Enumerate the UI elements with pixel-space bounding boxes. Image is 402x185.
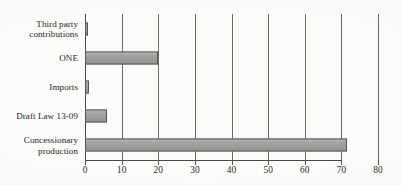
- y-axis-label-draft-law-13-09: Draft Law 13-09: [0, 111, 81, 121]
- y-axis-label-third-party-contributions: Third party contributions: [0, 18, 81, 39]
- x-axis-tick-label-10: 10: [117, 165, 126, 176]
- x-axis-tick-label-30: 30: [190, 165, 199, 176]
- x-axis-tick-label-60: 60: [300, 165, 309, 176]
- bar-0: [85, 22, 88, 35]
- bar-sheen: [86, 23, 87, 34]
- x-axis-tick-label-0: 0: [83, 165, 88, 176]
- y-axis-label-imports: Imports: [0, 82, 81, 92]
- x-axis-tick-label-20: 20: [154, 165, 163, 176]
- bar-4: [85, 139, 347, 152]
- x-axis-tick-labels: 01020304050607080: [0, 165, 402, 181]
- bar-3: [85, 110, 107, 123]
- x-axis-tick-label-80: 80: [373, 165, 382, 176]
- y-axis-label-one: ONE: [0, 53, 81, 63]
- bar-2: [85, 81, 89, 94]
- bar-sheen: [86, 140, 346, 151]
- gridline-80: [378, 14, 379, 160]
- bar-sheen: [86, 52, 157, 63]
- x-axis-tick-label-50: 50: [263, 165, 272, 176]
- bar-sheen: [86, 82, 88, 93]
- bar-1: [85, 51, 158, 64]
- x-axis-tick-label-40: 40: [227, 165, 236, 176]
- bar-sheen: [86, 111, 106, 122]
- y-axis-labels: Third party contributions ONE Imports Dr…: [0, 0, 81, 185]
- x-axis-tick-label-70: 70: [337, 165, 346, 176]
- bar-series: [85, 14, 378, 160]
- y-axis-label-concessionary-production: Concessionary production: [0, 135, 81, 156]
- bar-chart-figure: Third party contributions ONE Imports Dr…: [0, 0, 402, 185]
